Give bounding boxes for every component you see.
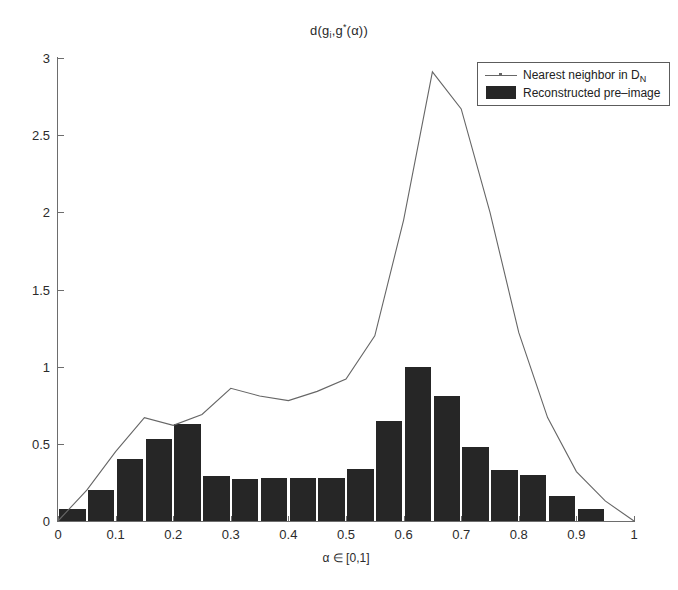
x-tick-label: 0.7: [452, 527, 470, 542]
title-tail: (α)): [347, 23, 368, 38]
plot-area: [58, 58, 634, 521]
x-tick-label: 0.3: [222, 527, 240, 542]
x-tick-label: 0.1: [107, 527, 125, 542]
legend-item-nearest-neighbor: Nearest neighbor in DN: [483, 67, 664, 84]
y-tick-label: 0.5: [10, 436, 50, 451]
bar-sample-icon: [486, 86, 516, 99]
y-tick-label: 1: [10, 359, 50, 374]
y-tick-label: 2.5: [10, 128, 50, 143]
x-tick-label: 0.4: [279, 527, 297, 542]
x-tick-mark: [634, 516, 635, 522]
x-tick-label: 0.5: [337, 527, 355, 542]
line-sample-icon: [483, 68, 519, 83]
x-tick-label: 0.9: [567, 527, 585, 542]
line-series: [58, 58, 634, 521]
x-tick-label: 0.2: [164, 527, 182, 542]
x-tick-label: 0.8: [510, 527, 528, 542]
y-tick-label: 2: [10, 205, 50, 220]
legend-box: Nearest neighbor in DN Reconstructed pre…: [477, 62, 670, 106]
legend-label-nearest-neighbor: Nearest neighbor in DN: [523, 68, 646, 84]
x-axis-label: α ∈ [0,1]: [58, 551, 634, 565]
chart-title: d(gi,g*(α)): [0, 22, 678, 40]
y-tick-label: 0: [10, 514, 50, 529]
x-tick-label: 0: [54, 527, 61, 542]
y-tick-label: 3: [10, 51, 50, 66]
title-mid: ,g: [332, 23, 343, 38]
y-tick-label: 1.5: [10, 282, 50, 297]
x-tick-label: 0.6: [395, 527, 413, 542]
x-tick-label: 1: [630, 527, 637, 542]
figure-canvas: d(gi,g*(α)) 00.511.522.53 00.10.20.30.40…: [0, 0, 678, 590]
title-lead: d(g: [310, 23, 329, 38]
legend-label-reconstructed-preimage: Reconstructed pre–image: [523, 86, 660, 100]
legend-item-reconstructed-preimage: Reconstructed pre–image: [483, 84, 664, 101]
